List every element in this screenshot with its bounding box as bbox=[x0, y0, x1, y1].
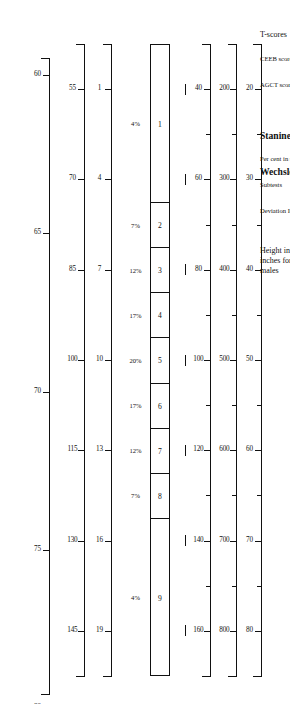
axis-endcap-start bbox=[76, 44, 85, 45]
label-stanines: Stanines bbox=[260, 130, 290, 142]
axis-minor-tick bbox=[258, 676, 263, 677]
axis-tick-label: 120 bbox=[186, 447, 210, 454]
stanine-number: 2 bbox=[158, 221, 162, 230]
axis-tick-label: 50 bbox=[237, 356, 261, 363]
axis-minor-tick bbox=[207, 586, 212, 587]
axis-tick-label: 1 bbox=[87, 86, 111, 93]
axis-minor-tick bbox=[233, 44, 238, 45]
axis-tick-label: 75 bbox=[25, 546, 49, 553]
stanine-number: 7 bbox=[158, 446, 162, 455]
axis-tick-label: 13 bbox=[87, 447, 111, 454]
axis-tick-label: 80 bbox=[237, 627, 261, 634]
axis-tick-label: 70 bbox=[25, 388, 49, 395]
axis-tick-label: 20 bbox=[237, 86, 261, 93]
stanine-number: 1 bbox=[158, 119, 162, 128]
axis-tick-label: 60 bbox=[25, 71, 49, 78]
stanine-number: 4 bbox=[158, 311, 162, 320]
axis-minor-tick bbox=[258, 225, 263, 226]
axis-tick-label: 300 bbox=[212, 176, 236, 183]
stanine-percent: 4% bbox=[122, 120, 150, 127]
axis-minor-tick bbox=[207, 225, 212, 226]
axis-minor-tick bbox=[207, 134, 212, 135]
axis-tick-label: 7 bbox=[87, 266, 111, 273]
axis-tick-label: 55 bbox=[60, 86, 84, 93]
stanine-percent: 7% bbox=[122, 492, 150, 499]
axis-tick-label: 85 bbox=[60, 266, 84, 273]
axis-minor-tick bbox=[233, 405, 238, 406]
stanine-number: 6 bbox=[158, 401, 162, 410]
axis-tick-label: 100 bbox=[186, 356, 210, 363]
axis-endcap-end bbox=[76, 676, 85, 677]
axis-tick-label: 70 bbox=[237, 537, 261, 544]
axis-tick-label: 10 bbox=[87, 356, 111, 363]
stanine-cell: 4 bbox=[151, 293, 169, 338]
dash-mark bbox=[185, 355, 186, 366]
stanine-cell: 1 bbox=[151, 45, 169, 203]
score-comparison-chart: 2030405060708020030040050060070080040608… bbox=[0, 0, 290, 704]
stanine-cell: 8 bbox=[151, 474, 169, 519]
axis-tick-label: 60 bbox=[237, 447, 261, 454]
dash-mark bbox=[185, 535, 186, 546]
stanine-cell: 6 bbox=[151, 384, 169, 429]
stanine-percent: 12% bbox=[122, 447, 150, 454]
stanine-number: 8 bbox=[158, 491, 162, 500]
label-deviation-iqs: Deviation IQs bbox=[260, 207, 290, 215]
axis-tick-label: 800 bbox=[212, 627, 236, 634]
axis-minor-tick bbox=[258, 405, 263, 406]
stanine-percent: 4% bbox=[122, 594, 150, 601]
axis-minor-tick bbox=[258, 586, 263, 587]
axis-tick-label: 70 bbox=[60, 176, 84, 183]
axis-tick-label: 40 bbox=[237, 266, 261, 273]
stanine-percent: 7% bbox=[122, 221, 150, 228]
dash-mark bbox=[185, 445, 186, 456]
axis-minor-tick bbox=[233, 134, 238, 135]
axis-endcap-end bbox=[103, 676, 112, 677]
axis-tick-label: 130 bbox=[60, 537, 84, 544]
label-subtests: Subtests bbox=[260, 181, 282, 189]
axis-tick-label: 140 bbox=[186, 537, 210, 544]
stanine-band: 123456789 bbox=[150, 44, 170, 676]
axis-minor-tick bbox=[258, 44, 263, 45]
axis-minor-tick bbox=[207, 495, 212, 496]
axis-minor-tick bbox=[207, 44, 212, 45]
stanine-cell: 2 bbox=[151, 203, 169, 248]
label-percent-stanine: Per cent in stanine bbox=[260, 155, 290, 163]
stanine-percent: 20% bbox=[122, 357, 150, 364]
dash-mark bbox=[185, 264, 186, 275]
axis-minor-tick bbox=[233, 676, 238, 677]
axis-endcap-start bbox=[103, 44, 112, 45]
axis-tick-label: 19 bbox=[87, 627, 111, 634]
stanine-number: 5 bbox=[158, 356, 162, 365]
stanine-number: 9 bbox=[158, 594, 162, 603]
axis-minor-tick bbox=[207, 676, 212, 677]
axis-minor-tick bbox=[258, 495, 263, 496]
stanine-percent: 12% bbox=[122, 266, 150, 273]
axis-tick-label: 600 bbox=[212, 447, 236, 454]
label-height-males: Height in inches for males bbox=[260, 246, 290, 275]
axis-endcap-start bbox=[41, 58, 50, 59]
axis-tick-label: 160 bbox=[186, 627, 210, 634]
axis-tick-label: 65 bbox=[25, 230, 49, 237]
axis-tick-label: 500 bbox=[212, 356, 236, 363]
stanine-cell: 3 bbox=[151, 248, 169, 293]
axis-minor-tick bbox=[233, 225, 238, 226]
label-t-scores: T-scores bbox=[260, 30, 287, 40]
stanine-cell: 7 bbox=[151, 429, 169, 474]
axis-endcap-end bbox=[41, 694, 50, 695]
dash-mark bbox=[185, 625, 186, 636]
axis-tick-label: 30 bbox=[237, 176, 261, 183]
axis-tick-label: 100 bbox=[60, 356, 84, 363]
axis-tick-label: 200 bbox=[212, 86, 236, 93]
axis-tick-label: 145 bbox=[60, 627, 84, 634]
dash-mark bbox=[185, 84, 186, 95]
stanine-cell: 5 bbox=[151, 338, 169, 383]
dash-mark bbox=[185, 174, 186, 185]
axis-tick-label: 40 bbox=[186, 86, 210, 93]
stanine-cell: 9 bbox=[151, 519, 169, 677]
axis-tick-label: 16 bbox=[87, 537, 111, 544]
stanine-percent: 17% bbox=[122, 402, 150, 409]
axis-minor-tick bbox=[207, 315, 212, 316]
axis-tick-label: 115 bbox=[60, 447, 84, 454]
label-wechsler-scales: Wechsler Scales bbox=[260, 166, 290, 178]
axis-line-height-males bbox=[49, 58, 50, 695]
